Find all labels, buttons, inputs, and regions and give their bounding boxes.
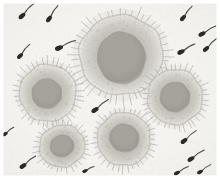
micrograph-canvas (0, 0, 220, 179)
micrograph-image (0, 0, 220, 179)
